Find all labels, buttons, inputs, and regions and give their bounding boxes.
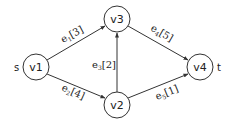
edge-label-e4: e4[5] <box>149 22 176 44</box>
edge-label-e2: e2[4] <box>60 82 87 103</box>
edge-label-e1: e1[3] <box>59 24 86 46</box>
node-v1: v1 <box>23 54 49 80</box>
node-label: v3 <box>110 13 124 26</box>
node-v2: v2 <box>104 92 130 118</box>
flow-network-diagram: e1[3] e2[4] e3[2] e4[5] e5[1] v1 v3 v2 v… <box>0 0 232 125</box>
source-label: s <box>14 62 19 73</box>
node-label: v4 <box>193 61 207 74</box>
node-label: v2 <box>110 99 124 112</box>
node-label: v1 <box>29 61 43 74</box>
node-v3: v3 <box>104 6 130 32</box>
node-v4: v4 <box>187 54 213 80</box>
sink-label: t <box>217 62 221 73</box>
edge-label-e3: e3[2] <box>92 59 116 71</box>
